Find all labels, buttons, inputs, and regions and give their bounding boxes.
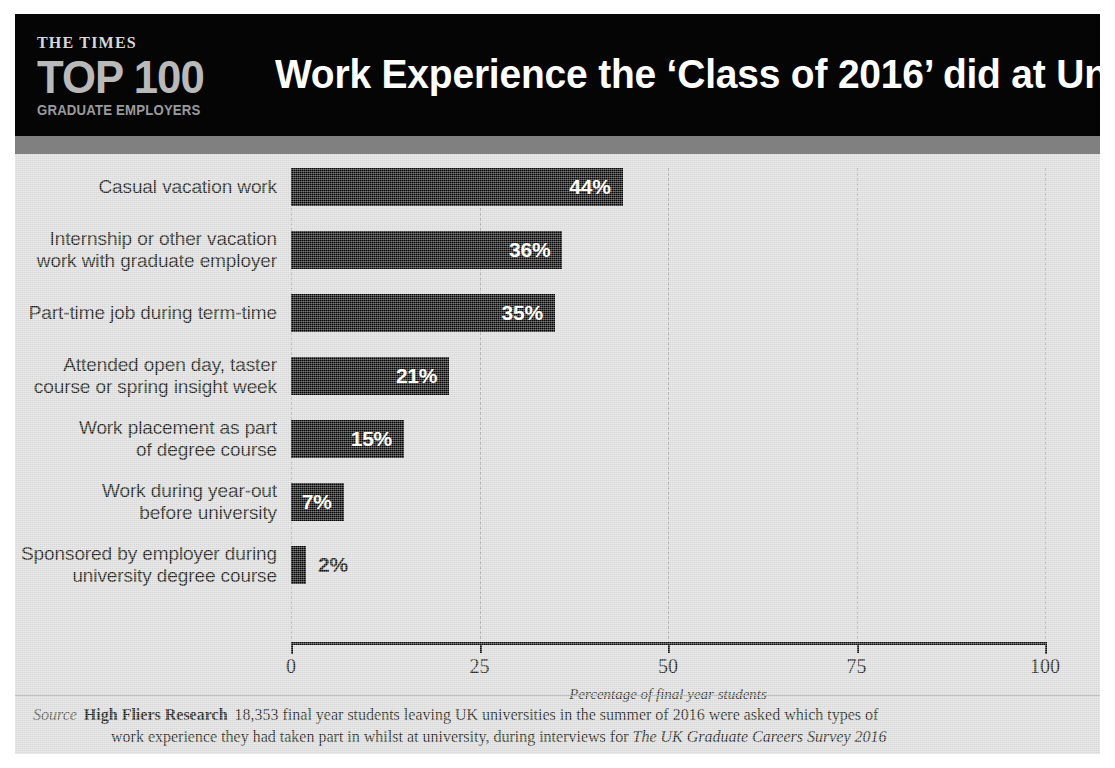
x-axis-tick-label: 0 <box>286 655 296 678</box>
bar-category-label: Work during year-out before university <box>21 480 277 525</box>
bar: 36% <box>291 231 562 269</box>
times-top100-logo: THE TIMES TOP 100 GRADUATE EMPLOYERS <box>15 14 265 136</box>
bar-category-label: Attended open day, taster course or spri… <box>21 354 277 399</box>
x-axis-tick-0 <box>291 642 293 654</box>
bar-value-label: 36% <box>509 238 562 262</box>
bar-value-label: 35% <box>501 301 554 325</box>
logo-graduate-employers-text: GRADUATE EMPLOYERS <box>37 101 238 118</box>
bar: 15% <box>291 420 404 458</box>
logo-top100-text: TOP 100 <box>37 54 249 100</box>
x-axis-tick-label: 100 <box>1030 655 1060 678</box>
bar-value-label: 21% <box>396 364 449 388</box>
chart-panel: Casual vacation work44%Internship or oth… <box>15 154 1100 754</box>
source-line1-text: 18,353 final year students leaving UK un… <box>235 706 879 723</box>
bar-row: Internship or other vacation work with g… <box>15 231 1100 269</box>
header-band: THE TIMES TOP 100 GRADUATE EMPLOYERS Wor… <box>15 14 1100 136</box>
x-axis-tick-50 <box>668 642 670 653</box>
x-axis-tick-label: 75 <box>847 655 867 678</box>
bar-value-label: 15% <box>351 427 404 451</box>
bar-value-label: 2% <box>318 553 348 577</box>
x-axis-tick-label: 25 <box>470 655 490 678</box>
x-axis-tick-75 <box>857 642 859 653</box>
bar-category-label: Casual vacation work <box>21 176 277 198</box>
bar: 35% <box>291 294 555 332</box>
page-title: Work Experience the ‘Class of 2016’ did … <box>265 14 1100 136</box>
source-label: Source <box>33 706 77 723</box>
bar-category-label: Part-time job during term-time <box>21 302 277 324</box>
bar-category-label: Internship or other vacation work with g… <box>21 228 277 273</box>
bar-row: Casual vacation work44% <box>15 168 1100 206</box>
bar: 7% <box>291 483 344 521</box>
source-line-1: SourceHigh Fliers Research18,353 final y… <box>33 704 1060 726</box>
bar-value-label: 44% <box>569 175 622 199</box>
source-line-2: work experience they had taken part in w… <box>33 726 1060 748</box>
bar-row: Work placement as part of degree course1… <box>15 420 1100 458</box>
bar-value-label: 7% <box>302 490 344 514</box>
x-axis-tick-label: 50 <box>658 655 678 678</box>
bar-row: Part-time job during term-time35% <box>15 294 1100 332</box>
x-axis-tick-100 <box>1045 642 1047 654</box>
source-survey-title: The UK Graduate Careers Survey 2016 <box>632 728 886 745</box>
source-line2-text: work experience they had taken part in w… <box>111 728 632 745</box>
bar <box>291 546 306 584</box>
bar-category-label: Sponsored by employer during university … <box>21 543 277 588</box>
bar-row: Sponsored by employer during university … <box>15 546 1100 584</box>
source-note: SourceHigh Fliers Research18,353 final y… <box>15 700 1100 747</box>
footer-divider <box>15 695 1100 696</box>
bar-series: Casual vacation work44%Internship or oth… <box>15 154 1100 684</box>
source-organisation: High Fliers Research <box>84 706 228 723</box>
bar-row: Work during year-out before university7% <box>15 483 1100 521</box>
bar: 44% <box>291 168 623 206</box>
x-axis-tick-25 <box>480 642 482 653</box>
bar-chart: Casual vacation work44%Internship or oth… <box>15 154 1100 684</box>
infographic-page: THE TIMES TOP 100 GRADUATE EMPLOYERS Wor… <box>0 0 1115 768</box>
bar-row: Attended open day, taster course or spri… <box>15 357 1100 395</box>
bar: 21% <box>291 357 449 395</box>
bar-category-label: Work placement as part of degree course <box>21 417 277 462</box>
page-title-text: Work Experience the ‘Class of 2016’ did … <box>275 53 1100 96</box>
header-accent-band <box>15 136 1100 154</box>
